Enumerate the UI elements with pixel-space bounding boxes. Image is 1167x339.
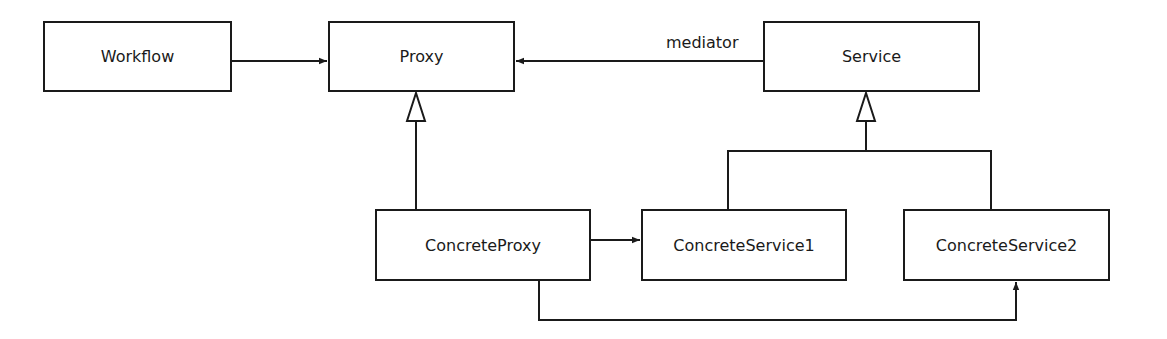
class-name: Workflow: [101, 47, 174, 66]
generalization-triangle-icon: [407, 93, 425, 121]
class-box-proxy[interactable]: Proxy: [328, 21, 515, 92]
class-name: Proxy: [400, 47, 444, 66]
class-name: Service: [842, 47, 901, 66]
class-box-workflow[interactable]: Workflow: [43, 21, 232, 92]
generalization-triangle-icon: [857, 93, 875, 121]
edge-concreteservices-generalize-service: [728, 93, 991, 209]
edge-concreteproxy-to-concreteservice2: [539, 281, 1016, 320]
class-box-concrete-service2[interactable]: ConcreteService2: [903, 209, 1110, 281]
class-box-service[interactable]: Service: [763, 21, 980, 92]
class-name: ConcreteService2: [936, 236, 1077, 255]
class-box-concrete-service1[interactable]: ConcreteService1: [641, 209, 847, 281]
class-name: ConcreteProxy: [425, 236, 541, 255]
class-box-concrete-proxy[interactable]: ConcreteProxy: [375, 209, 591, 281]
diagram-canvas: mediator Workflow Proxy Service Concrete…: [0, 0, 1167, 339]
class-name: ConcreteService1: [673, 236, 814, 255]
edge-concreteproxy-generalizes-proxy: [407, 93, 425, 209]
edge-label-mediator: mediator: [666, 33, 738, 52]
